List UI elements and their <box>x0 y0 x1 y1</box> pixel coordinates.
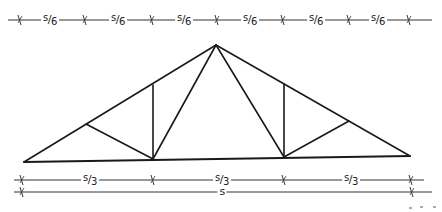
fraction-denominator: 6 <box>251 16 257 27</box>
fraction-numerator: s <box>43 12 48 23</box>
scan-speck <box>433 206 436 208</box>
truss-member-left-support-to-apex <box>24 45 216 162</box>
scan-speck <box>420 206 423 208</box>
dimension-label: s <box>217 186 226 198</box>
fraction-numerator: s <box>83 172 88 183</box>
dimension-label: s/3 <box>81 174 99 186</box>
fraction-numerator: s <box>309 12 314 23</box>
fraction-numerator: s <box>111 12 116 23</box>
fraction-denominator: 6 <box>379 16 385 27</box>
fraction-denominator: 6 <box>317 16 323 27</box>
fraction-numerator: s <box>177 12 182 23</box>
scan-specks <box>409 206 436 209</box>
truss-member-left-support-to-right-support <box>24 156 410 162</box>
truss-member-apex-to-bottom-right <box>216 45 284 157</box>
fraction-numerator: s <box>371 12 376 23</box>
dimension-label-text: s <box>219 185 224 198</box>
truss-members <box>24 45 410 162</box>
fraction-numerator: s <box>344 172 349 183</box>
fraction-numerator: s <box>215 172 220 183</box>
fraction-denominator: 6 <box>51 16 57 27</box>
dimension-label: s/6 <box>241 14 259 26</box>
fraction-denominator: 3 <box>352 176 358 187</box>
dimension-label: s/6 <box>175 14 193 26</box>
dimension-lines <box>8 15 432 197</box>
truss-member-top-left-panel-to-bottom-left <box>86 124 153 159</box>
dimension-label: s/3 <box>342 174 360 186</box>
dimension-label: s/6 <box>307 14 325 26</box>
dimension-label: s/6 <box>41 14 59 26</box>
fraction-denominator: 6 <box>185 16 191 27</box>
scan-speck <box>409 207 412 209</box>
truss-member-bottom-right-to-top-right-panel <box>284 121 349 157</box>
fraction-denominator: 6 <box>119 16 125 27</box>
dimension-label: s/6 <box>369 14 387 26</box>
truss-member-bottom-left-to-apex <box>153 45 216 159</box>
fraction-numerator: s <box>243 12 248 23</box>
truss-member-apex-to-right-support <box>216 45 410 156</box>
dimension-label: s/6 <box>109 14 127 26</box>
fraction-denominator: 3 <box>91 176 97 187</box>
